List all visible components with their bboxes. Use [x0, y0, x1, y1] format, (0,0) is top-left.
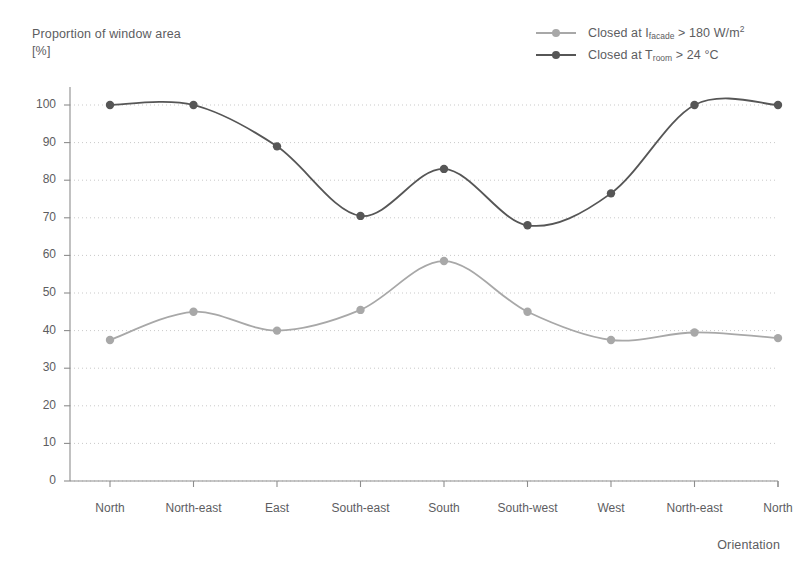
legend-item-room[interactable]: Closed at Troom > 24 °C — [536, 44, 744, 66]
y-axis-title-line2: [%] — [32, 44, 51, 58]
y-axis-title-line1: Proportion of window area — [32, 27, 181, 41]
data-point-0-2[interactable] — [273, 326, 281, 334]
legend-label-room: Closed at Troom > 24 °C — [588, 48, 719, 62]
y-axis-tick-label: 20 — [22, 398, 56, 412]
data-point-1-6[interactable] — [607, 189, 615, 197]
data-point-0-6[interactable] — [607, 336, 615, 344]
legend-label-room-prefix: Closed at T — [588, 48, 653, 62]
x-axis-tick-label: South-east — [331, 501, 389, 515]
x-axis-tick-label: South — [428, 501, 459, 515]
legend-label-facade-prefix: Closed at I — [588, 26, 649, 40]
y-axis-title: Proportion of window area[%] — [32, 26, 181, 60]
legend-swatch-facade-icon — [536, 27, 576, 39]
data-point-0-3[interactable] — [356, 306, 364, 314]
x-axis-title: Orientation — [717, 538, 780, 552]
y-axis-tick-label: 30 — [22, 360, 56, 374]
data-point-0-8[interactable] — [774, 334, 782, 342]
data-point-1-4[interactable] — [440, 165, 448, 173]
series-line-0 — [110, 261, 778, 341]
data-point-1-0[interactable] — [106, 101, 114, 109]
data-point-0-5[interactable] — [523, 308, 531, 316]
legend-label-room-sub: room — [653, 53, 672, 63]
y-axis-tick-label: 40 — [22, 323, 56, 337]
line-chart: Proportion of window area[%] Closed at I… — [0, 0, 802, 576]
y-axis-tick-label: 80 — [22, 172, 56, 186]
legend-swatch-room-icon — [536, 49, 576, 61]
y-axis-tick-label: 10 — [22, 435, 56, 449]
x-axis-tick-label: North — [95, 501, 124, 515]
plot-area — [0, 0, 802, 576]
y-axis-tick-label: 90 — [22, 135, 56, 149]
data-point-1-5[interactable] — [523, 221, 531, 229]
legend-label-facade: Closed at Ifacade > 180 W/m2 — [588, 26, 744, 40]
x-axis-tick-label: East — [265, 501, 289, 515]
x-axis-tick-label: North — [763, 501, 792, 515]
legend-label-facade-sup: 2 — [740, 24, 745, 34]
x-axis-tick-label: North-east — [165, 501, 221, 515]
legend-label-facade-sub: facade — [649, 31, 675, 41]
y-axis-tick-label: 0 — [22, 473, 56, 487]
y-axis-tick-label: 70 — [22, 210, 56, 224]
data-point-1-2[interactable] — [273, 142, 281, 150]
y-axis-tick-label: 60 — [22, 247, 56, 261]
data-point-0-4[interactable] — [440, 257, 448, 265]
data-point-1-1[interactable] — [189, 101, 197, 109]
x-axis-tick-label: North-east — [666, 501, 722, 515]
data-point-0-0[interactable] — [106, 336, 114, 344]
y-axis-tick-label: 50 — [22, 285, 56, 299]
series-line-1 — [110, 98, 778, 226]
x-axis-tick-label: South-west — [497, 501, 557, 515]
x-axis-tick-label: West — [597, 501, 624, 515]
y-axis-tick-label: 100 — [22, 97, 56, 111]
data-point-0-7[interactable] — [690, 328, 698, 336]
data-point-1-3[interactable] — [356, 212, 364, 220]
chart-legend: Closed at Ifacade > 180 W/m2 Closed at T… — [536, 22, 744, 66]
legend-label-room-suffix: > 24 °C — [672, 48, 718, 62]
legend-label-facade-suffix: > 180 W/m — [674, 26, 739, 40]
data-point-0-1[interactable] — [189, 308, 197, 316]
legend-item-facade[interactable]: Closed at Ifacade > 180 W/m2 — [536, 22, 744, 44]
data-point-1-8[interactable] — [774, 101, 782, 109]
data-point-1-7[interactable] — [690, 101, 698, 109]
